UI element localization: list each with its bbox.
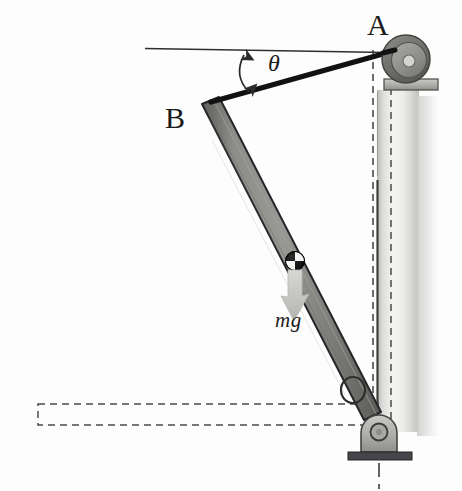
horizontal-reference-line xyxy=(145,49,387,53)
support-base-plate xyxy=(348,452,412,460)
center-of-mass-marker xyxy=(286,252,305,271)
dashed-reference-rectangle xyxy=(38,404,378,425)
point-label-a: A xyxy=(367,10,389,40)
point-label-b: B xyxy=(165,103,185,133)
cable-pulley-contact xyxy=(383,50,395,53)
pulley-wheel xyxy=(382,35,430,83)
angle-label-theta: θ xyxy=(268,51,280,75)
pin-support-bracket xyxy=(361,415,397,452)
diagram-svg xyxy=(0,0,462,491)
cable-rope xyxy=(211,52,390,102)
physics-diagram-canvas: A B θ mg xyxy=(0,0,462,491)
vertical-wall-post xyxy=(377,90,439,436)
weight-label-mg: mg xyxy=(275,310,302,331)
angle-arc-arrow xyxy=(240,55,249,92)
